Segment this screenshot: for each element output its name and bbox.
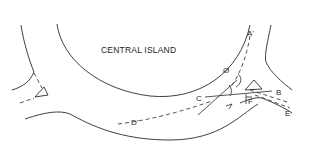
roundabout-diagram: CENTRAL ISLAND A' Ø C B F E D' [0,0,313,147]
path-a-line [230,36,250,88]
label-e: E [285,109,290,118]
direction-arrow [226,104,232,109]
label-c: C [196,94,202,103]
left-entry-dash [20,98,34,103]
tangent-line [198,80,237,115]
left-approach-kerb-upper [12,72,34,90]
label-b: B [276,88,281,97]
outer-edge-bottom [25,104,258,140]
left-giveway-line [34,73,42,88]
outer-edge-left-upper [21,25,34,72]
right-splitter-island [245,80,262,90]
label-angle: Ø [223,66,229,75]
left-splitter-island [35,87,48,97]
outer-edge-right-upper [265,25,292,90]
label-d: D' [131,118,139,127]
label-f: F [248,97,253,106]
central-island-label: CENTRAL ISLAND [101,45,176,55]
label-a: A' [247,29,254,38]
central-island-edge [57,24,250,97]
line-c-b [205,91,272,97]
